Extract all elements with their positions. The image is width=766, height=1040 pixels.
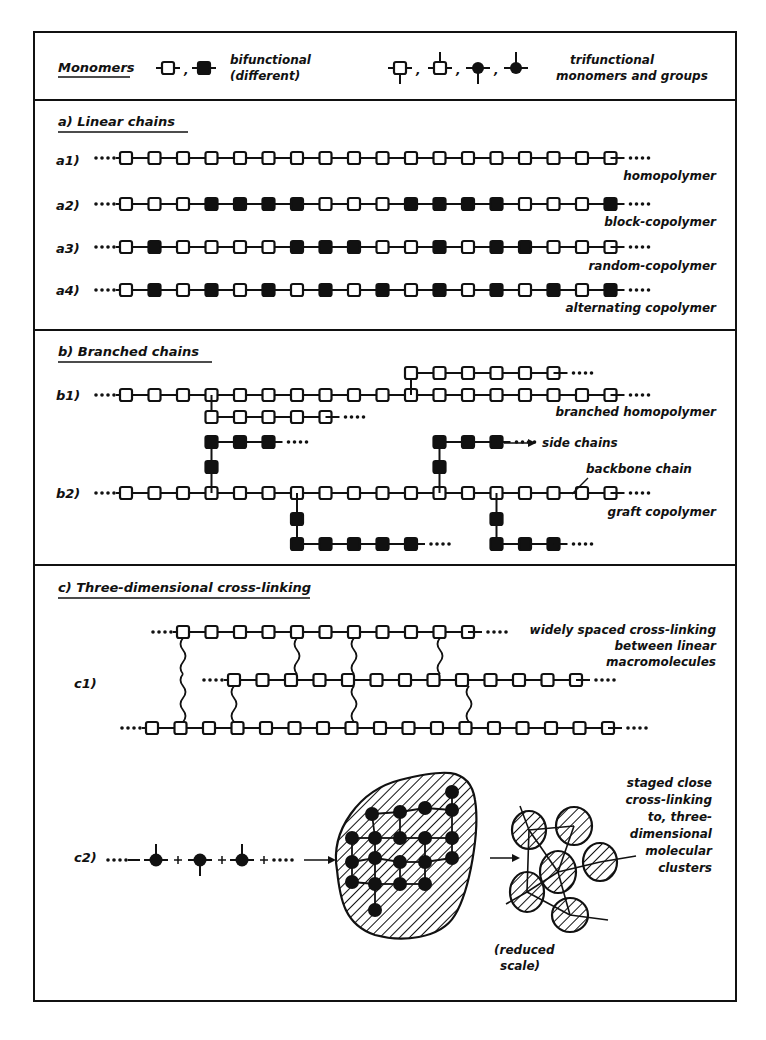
section-c-title: c) Three-dimensional cross-linking: [58, 580, 311, 595]
c1-chain-3-monomer: [346, 722, 358, 734]
a2-monomer: [348, 198, 360, 210]
b2-backbone-monomer: [263, 487, 275, 499]
a1-monomer: [234, 152, 246, 164]
c1-crosslink: [181, 674, 186, 722]
a1-monomer: [320, 152, 332, 164]
c1-chain-2-monomer: [428, 674, 440, 686]
scale-note-line-2: scale): [500, 959, 540, 973]
c1-chain-3-lead-dot: [132, 726, 136, 730]
a1-tag: a1): [56, 153, 80, 168]
a1-trail-dot: [647, 156, 651, 160]
network-node: [368, 903, 382, 917]
b2-graft-trail-dot: [429, 542, 433, 546]
a4-monomer: [206, 284, 218, 296]
b2-backbone-lead-dot: [100, 491, 104, 495]
network-node: [345, 831, 359, 845]
cross-linking: [106, 626, 648, 938]
b2-graft-trail-dot: [578, 542, 582, 546]
a1-monomer: [519, 152, 531, 164]
a3-monomer: [519, 241, 531, 253]
b1-backbone-trail-dot: [629, 393, 633, 397]
network-node: [393, 831, 407, 845]
b1-backbone-trail-dot: [647, 393, 651, 397]
a2-trail-dot: [629, 202, 633, 206]
a4-monomer: [177, 284, 189, 296]
b1-backbone-trail-dot: [635, 393, 639, 397]
a2-lead-dot: [94, 202, 98, 206]
b1-backbone-lead-dot: [106, 393, 110, 397]
b1-backbone-monomer: [491, 389, 503, 401]
a4-monomer: [462, 284, 474, 296]
c2-trail-dot: [272, 858, 276, 862]
a1-monomer: [462, 152, 474, 164]
b1-tag: b1): [56, 388, 80, 403]
c1-crosslink: [232, 686, 237, 722]
c1-crosslink: [352, 686, 357, 722]
c2-label-line: molecular: [645, 844, 713, 858]
legend-symbols: ,,,,: [156, 52, 528, 84]
c2-label-line: clusters: [658, 861, 712, 875]
c2-label-line: cross-linking: [625, 793, 712, 807]
backbone-chain-label: backbone chain: [586, 462, 692, 476]
c2-lead-dot: [106, 858, 110, 862]
c1-label-line-1: widely spaced cross-linking: [530, 623, 717, 637]
c1-chain-3-lead-dot: [138, 726, 142, 730]
b1-backbone-monomer: [576, 389, 588, 401]
c1-chain-2-monomer: [342, 674, 354, 686]
a3-trail-dot: [635, 245, 639, 249]
a2-lead-dot: [106, 202, 110, 206]
a3-monomer: [576, 241, 588, 253]
a3-monomer: [491, 241, 503, 253]
c1-chain-2-monomer: [257, 674, 269, 686]
b1-branch-monomer: [291, 411, 303, 423]
b1-backbone-monomer: [149, 389, 161, 401]
a3-monomer: [263, 241, 275, 253]
c1-chain-3-monomer: [403, 722, 415, 734]
b2-graft-trail-dot: [305, 440, 309, 444]
b1-branch-monomer: [434, 367, 446, 379]
c1-tag: c1): [74, 676, 97, 691]
network-node: [393, 877, 407, 891]
b2-graft-trail-dot: [435, 542, 439, 546]
molecular-cluster: [556, 807, 592, 845]
network-node: [418, 877, 432, 891]
b2-backbone-monomer: [177, 487, 189, 499]
c1-chain-3-lead-dot: [120, 726, 124, 730]
a4-monomer: [405, 284, 417, 296]
b1-backbone-monomer: [548, 389, 560, 401]
c2-trail-dot: [284, 858, 288, 862]
c2-trifunctional-monomer: [194, 854, 207, 867]
b1-branch-trail-dot: [578, 371, 582, 375]
c1-crosslink: [438, 638, 443, 674]
c1-chain-1-monomer: [177, 626, 189, 638]
b1-branch-trail-dot: [590, 371, 594, 375]
c1-chain-3-monomer: [260, 722, 272, 734]
b1-branch-monomer: [405, 367, 417, 379]
a3-monomer: [462, 241, 474, 253]
c1-chain-1-trail-dot: [498, 630, 502, 634]
a4-lead-dot: [112, 288, 116, 292]
a3-lead-dot: [100, 245, 104, 249]
c1-chain-3-monomer: [289, 722, 301, 734]
b2-graft-trail-dot: [447, 542, 451, 546]
network-node: [445, 785, 459, 799]
b2-backbone-monomer: [377, 487, 389, 499]
a3-lead-dot: [106, 245, 110, 249]
c1-chain-2-monomer: [314, 674, 326, 686]
a3-monomer: [206, 241, 218, 253]
b1-branch-monomer: [263, 411, 275, 423]
c1-chain-3-monomer: [232, 722, 244, 734]
a4-lead-dot: [94, 288, 98, 292]
a3-lead-dot: [94, 245, 98, 249]
c2-label-line: staged close: [627, 776, 712, 790]
side-chains-label: side chains: [542, 436, 618, 450]
a2-monomer: [177, 198, 189, 210]
a2-trail-dot: [635, 202, 639, 206]
side-chains-arrowhead: [528, 439, 536, 447]
c1-label-line-2: between linear: [615, 639, 718, 653]
a3-monomer: [548, 241, 560, 253]
network-node: [345, 875, 359, 889]
c1-chain-2-monomer: [456, 674, 468, 686]
network-node: [445, 803, 459, 817]
c2-cluster-label: staged closecross-linkingto, three-dimen…: [625, 776, 713, 875]
